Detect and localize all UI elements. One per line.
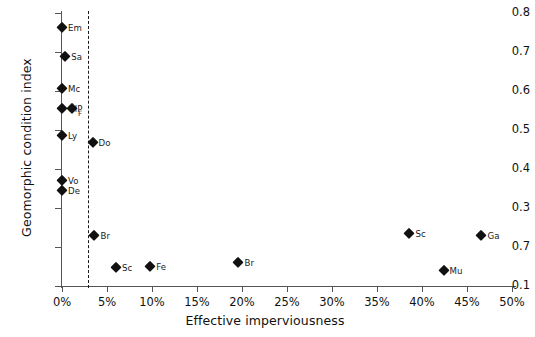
data-point-label: F: [78, 109, 82, 118]
x-tick-mark: [152, 286, 153, 292]
data-point-label: Mc: [68, 84, 80, 94]
data-point-marker: [57, 130, 68, 141]
x-tick-mark: [62, 286, 63, 292]
data-point-label: Ly: [68, 131, 77, 141]
x-tick-mark: [377, 286, 378, 292]
x-tick-label: 10%: [129, 295, 175, 309]
data-point-marker: [233, 257, 244, 268]
x-tick-label: 25%: [264, 295, 310, 309]
x-tick-label: 45%: [444, 295, 490, 309]
data-point-label: Sc: [415, 229, 425, 239]
data-point-marker: [57, 103, 68, 114]
x-axis-line: [61, 286, 516, 287]
x-tick-mark: [287, 286, 288, 292]
data-point-label: Sc: [122, 263, 132, 273]
y-tick-label: 0.6: [482, 83, 530, 97]
data-point-marker: [111, 262, 122, 273]
data-point-label: Br: [100, 231, 110, 241]
data-point-label: Fe: [156, 262, 166, 272]
x-tick-mark: [512, 286, 513, 292]
data-point-marker: [57, 185, 68, 196]
data-point-label: Em: [68, 23, 82, 33]
x-tick-mark: [467, 286, 468, 292]
data-point-label: De: [68, 186, 80, 196]
data-point-label: Do: [99, 138, 111, 148]
y-tick-label: 0.5: [482, 122, 530, 136]
x-tick-mark: [332, 286, 333, 292]
x-axis-title: Effective imperviousness: [0, 313, 530, 328]
x-tick-label: 0%: [39, 295, 85, 309]
x-tick-mark: [242, 286, 243, 292]
data-point-marker: [438, 264, 449, 275]
x-tick-mark: [197, 286, 198, 292]
x-tick-mark: [422, 286, 423, 292]
y-tick-mark: [55, 208, 62, 209]
data-point-label: Vo: [68, 176, 79, 186]
y-axis-title: Geomorphic condition index: [19, 28, 34, 268]
threshold-line: [88, 11, 89, 288]
y-tick-mark: [55, 169, 62, 170]
y-tick-mark: [55, 286, 62, 287]
data-point-label: Mu: [450, 266, 463, 276]
data-point-label: Ga: [487, 231, 499, 241]
y-tick-label: 0.7: [482, 239, 530, 253]
data-point-marker: [89, 229, 100, 240]
data-point-marker: [57, 21, 68, 32]
x-tick-label: 50%: [489, 295, 535, 309]
x-tick-label: 35%: [354, 295, 400, 309]
y-tick-label: 0.7: [482, 44, 530, 58]
y-tick-label: 0.4: [482, 161, 530, 175]
y-tick-label: 0.8: [482, 5, 530, 19]
x-tick-label: 15%: [174, 295, 220, 309]
y-tick-mark: [55, 247, 62, 248]
x-tick-label: 20%: [219, 295, 265, 309]
data-point-marker: [57, 175, 68, 186]
y-tick-label: 0.3: [482, 200, 530, 214]
data-point-marker: [404, 228, 415, 239]
data-point-label: Br: [244, 258, 254, 268]
x-tick-mark: [107, 286, 108, 292]
y-tick-mark: [55, 13, 62, 14]
x-tick-label: 30%: [309, 295, 355, 309]
x-tick-label: 40%: [399, 295, 445, 309]
x-tick-label: 5%: [84, 295, 130, 309]
data-point-label: Sa: [71, 52, 82, 62]
data-point-marker: [145, 260, 156, 271]
y-tick-label: 0.1: [482, 278, 530, 292]
